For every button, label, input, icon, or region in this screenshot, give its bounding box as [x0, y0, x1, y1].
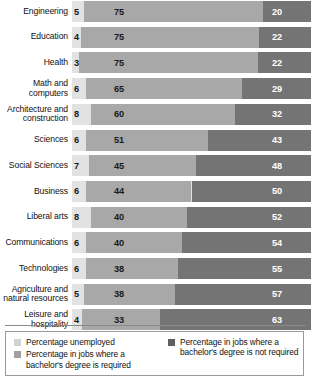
- chart-row: Education47522: [0, 27, 311, 48]
- value-degree-required: 75: [114, 52, 124, 73]
- category-label: Technologies: [0, 258, 68, 279]
- legend-item-unemployed: Percentage unemployed: [14, 337, 164, 347]
- value-degree-required: 75: [114, 27, 124, 48]
- legend-item-degree-not-required: Percentage in jobs where a bachelor's de…: [168, 337, 300, 358]
- segment-degree-not-required: [182, 232, 311, 253]
- stacked-bar: 53857: [72, 284, 311, 305]
- segment-degree-required: [84, 284, 175, 305]
- value-unemployed: 6: [74, 181, 79, 202]
- stacked-bar: 74548: [72, 155, 311, 176]
- stacked-bar-chart: Engineering57520Education47522Health3752…: [0, 0, 311, 321]
- segment-degree-not-required: [208, 130, 311, 151]
- segment-degree-not-required: [160, 309, 311, 330]
- category-label: Leisure and hospitality: [0, 309, 68, 330]
- value-degree-not-required: 63: [272, 309, 282, 330]
- category-label: Liberal arts: [0, 207, 68, 228]
- value-unemployed: 7: [74, 155, 79, 176]
- legend-swatch-degree-not-required-icon: [168, 339, 175, 346]
- value-degree-required: 40: [114, 207, 124, 228]
- chart-row: Math and computers66529: [0, 78, 311, 99]
- value-unemployed: 8: [74, 207, 79, 228]
- value-degree-required: 51: [114, 130, 124, 151]
- value-degree-not-required: 22: [272, 52, 282, 73]
- stacked-bar: 37522: [72, 52, 311, 73]
- value-degree-required: 38: [114, 258, 124, 279]
- value-unemployed: 4: [74, 27, 79, 48]
- stacked-bar: 65143: [72, 130, 311, 151]
- segment-degree-required: [81, 27, 258, 48]
- legend-label-degree-required: Percentage in jobs where a bachelor's de…: [26, 349, 131, 369]
- value-degree-not-required: 22: [272, 27, 282, 48]
- value-degree-not-required: 43: [272, 130, 282, 151]
- segment-degree-required: [86, 258, 178, 279]
- value-degree-not-required: 54: [272, 232, 282, 253]
- value-degree-required: 44: [114, 181, 124, 202]
- segment-degree-required: [79, 52, 258, 73]
- chart-row: Engineering57520: [0, 1, 311, 22]
- chart-row: Business64450: [0, 181, 311, 202]
- legend-column-right: Percentage in jobs where a bachelor's de…: [168, 337, 300, 360]
- segment-degree-required: [86, 181, 191, 202]
- value-unemployed: 6: [74, 232, 79, 253]
- stacked-bar: 63855: [72, 258, 311, 279]
- value-degree-not-required: 50: [272, 181, 282, 202]
- chart-row: Architecture and construction86032: [0, 104, 311, 125]
- value-degree-required: 45: [114, 155, 124, 176]
- category-label: Education: [0, 27, 68, 48]
- value-unemployed: 5: [74, 284, 79, 305]
- value-unemployed: 3: [74, 52, 79, 73]
- legend-item-degree-required: Percentage in jobs where a bachelor's de…: [14, 349, 164, 370]
- value-degree-not-required: 29: [272, 78, 282, 99]
- segment-degree-not-required: [196, 155, 311, 176]
- chart-legend: Percentage unemployed Percentage in jobs…: [5, 331, 304, 376]
- segment-degree-not-required: [263, 1, 311, 22]
- stacked-bar: 57520: [72, 1, 311, 22]
- chart-row: Agriculture and natural resources53857: [0, 284, 311, 305]
- value-degree-not-required: 52: [272, 207, 282, 228]
- value-degree-required: 40: [114, 232, 124, 253]
- segment-degree-required: [86, 130, 208, 151]
- stacked-bar: 66529: [72, 78, 311, 99]
- category-label: Architecture and construction: [0, 104, 68, 125]
- segment-degree-not-required: [175, 284, 311, 305]
- chart-row: Liberal arts84052: [0, 207, 311, 228]
- category-label: Health: [0, 52, 68, 73]
- chart-row: Communications64054: [0, 232, 311, 253]
- value-unemployed: 6: [74, 258, 79, 279]
- segment-degree-not-required: [192, 181, 312, 202]
- value-unemployed: 6: [74, 78, 79, 99]
- segment-degree-required: [89, 155, 197, 176]
- legend-label-unemployed: Percentage unemployed: [26, 337, 115, 347]
- category-label: Social Sciences: [0, 155, 68, 176]
- legend-swatch-unemployed-icon: [14, 339, 21, 346]
- value-degree-required: 65: [114, 78, 124, 99]
- category-label: Agriculture and natural resources: [0, 284, 68, 305]
- segment-degree-required: [91, 207, 187, 228]
- chart-row: Health37522: [0, 52, 311, 73]
- value-degree-required: 33: [114, 309, 124, 330]
- value-degree-not-required: 57: [272, 284, 282, 305]
- stacked-bar: 43363: [72, 309, 311, 330]
- category-label: Communications: [0, 232, 68, 253]
- segment-degree-not-required: [187, 207, 311, 228]
- chart-row: Technologies63855: [0, 258, 311, 279]
- segment-degree-not-required: [178, 258, 311, 279]
- legend-separator-line: [5, 325, 306, 326]
- value-unemployed: 4: [74, 309, 79, 330]
- stacked-bar: 47522: [72, 27, 311, 48]
- stacked-bar: 86032: [72, 104, 311, 125]
- chart-row: Leisure and hospitality43363: [0, 309, 311, 330]
- chart-row: Social Sciences74548: [0, 155, 311, 176]
- value-unemployed: 8: [74, 104, 79, 125]
- segment-degree-not-required: [258, 52, 311, 73]
- value-unemployed: 5: [74, 1, 79, 22]
- category-label: Engineering: [0, 1, 68, 22]
- stacked-bar: 64054: [72, 232, 311, 253]
- category-label: Business: [0, 181, 68, 202]
- value-degree-not-required: 32: [272, 104, 282, 125]
- value-degree-required: 60: [114, 104, 124, 125]
- value-degree-not-required: 55: [272, 258, 282, 279]
- stacked-bar: 64450: [72, 181, 311, 202]
- segment-degree-required: [86, 232, 182, 253]
- value-unemployed: 6: [74, 130, 79, 151]
